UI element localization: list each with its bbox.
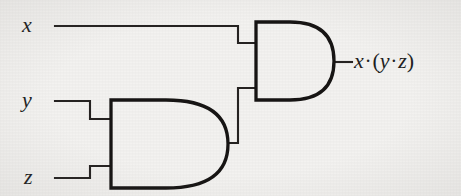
output-dot-2: · — [390, 50, 399, 72]
output-expression-label: x·(y·z) — [354, 50, 414, 72]
input-label-y: y — [22, 89, 32, 111]
output-term-y: y — [380, 48, 390, 73]
output-term-z: z — [398, 48, 407, 73]
logic-circuit-figure: x y z x·(y·z) — [0, 0, 461, 196]
output-close-paren: ) — [407, 48, 414, 73]
input-label-z: z — [24, 166, 33, 188]
and-gate-outer — [256, 22, 334, 100]
wire-y — [55, 101, 111, 119]
output-open-paren: ( — [372, 48, 379, 73]
and-gate-inner — [111, 100, 228, 188]
wire-inner-output — [226, 88, 256, 143]
wire-z — [55, 166, 111, 178]
wire-x — [55, 26, 256, 43]
output-term-x: x — [354, 48, 364, 73]
circuit-schematic — [0, 0, 461, 196]
input-label-x: x — [22, 14, 32, 36]
